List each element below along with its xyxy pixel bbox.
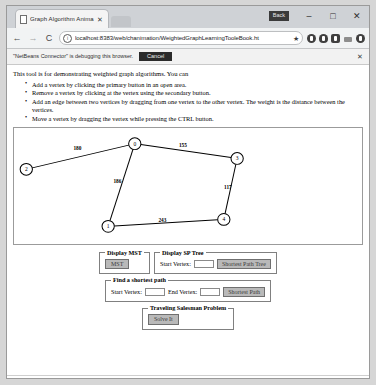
instruction-list: Add a vertex by clicking the primary but… [13, 81, 363, 123]
tab-strip: Graph Algorithm Anima ✕ Back – □ ✕ [7, 6, 369, 28]
close-icon[interactable]: ✕ [97, 16, 104, 23]
close-window-button[interactable]: ✕ [345, 6, 369, 26]
infobar-message: "NetBeans Connector" is debugging this b… [13, 54, 133, 60]
browser-tab[interactable]: Graph Algorithm Anima ✕ [15, 9, 109, 28]
find-shortest-path-legend: Find a shortest path [111, 277, 168, 283]
extension-icon-2[interactable] [331, 34, 340, 43]
tsp-legend: Traveling Salesman Problem [148, 305, 228, 311]
list-item: Add an edge between two vertices by drag… [32, 98, 363, 114]
vertex-label: 2 [25, 166, 28, 172]
tsp-panel: Traveling Salesman Problem Solve It [142, 305, 234, 330]
url-text: localhost:8383/web/chanimation/WeightedG… [75, 35, 290, 41]
shortest-path-tree-button[interactable]: Shortest Path Tree [217, 259, 271, 270]
graph-edge[interactable] [110, 149, 133, 220]
intro-text: This tool is for demonstrating weighted … [13, 70, 363, 78]
bookmark-star-icon[interactable]: ★ [293, 35, 299, 42]
edge-weight-label: 186 [113, 178, 121, 184]
minimize-button[interactable]: – [297, 6, 321, 26]
sp-tree-start-vertex-label: Start Vertex: [160, 261, 191, 267]
sp-tree-start-vertex-input[interactable] [194, 260, 214, 268]
edge-weight-label: 117 [224, 184, 232, 190]
debug-infobar: "NetBeans Connector" is debugging this b… [7, 49, 369, 65]
panel-row-middle: Find a shortest path Start Vertex: End V… [105, 277, 271, 302]
cancel-button[interactable]: Cancel [139, 52, 172, 62]
reload-icon[interactable]: C [43, 31, 55, 45]
vertex-label: 1 [107, 223, 110, 229]
window-controls: Back – □ ✕ [269, 6, 369, 26]
solve-it-button[interactable]: Solve It [148, 314, 179, 325]
vertex-label: 0 [133, 140, 136, 146]
shield-icon[interactable] [319, 34, 328, 43]
shortest-path-end-vertex-input[interactable] [200, 288, 220, 296]
find-shortest-path-panel: Find a shortest path Start Vertex: End V… [105, 277, 271, 302]
mst-button[interactable]: MST [105, 259, 129, 270]
list-item: Add a vertex by clicking the primary but… [32, 81, 363, 89]
shortest-path-button[interactable]: Shortest Path [223, 287, 265, 298]
edge-weight-label: 180 [73, 144, 81, 150]
display-sp-tree-legend: Display SP Tree [160, 250, 206, 256]
extension-icons [307, 34, 365, 43]
shortest-path-start-vertex-input[interactable] [145, 288, 165, 296]
shortest-path-end-vertex-label: End Vertex: [168, 289, 197, 295]
display-mst-panel: Display MST MST [99, 250, 150, 275]
edge-weight-label: 243 [158, 217, 166, 223]
extension-icon-1[interactable] [307, 34, 316, 43]
display-mst-legend: Display MST [105, 250, 144, 256]
desktop-background: Graph Algorithm Anima ✕ Back – □ ✕ ← → C… [0, 0, 376, 385]
panel-row-bottom: Traveling Salesman Problem Solve It [142, 305, 234, 330]
window-tooltip-badge: Back [269, 11, 289, 21]
browser-window: Graph Algorithm Anima ✕ Back – □ ✕ ← → C… [6, 5, 370, 379]
close-icon[interactable]: ✕ [357, 53, 363, 60]
page-viewport: This tool is for demonstrating weighted … [7, 65, 369, 378]
graph-canvas[interactable]: 180155186117243 01234 [13, 127, 363, 245]
edge-weight-label: 155 [179, 141, 187, 147]
list-item: Move a vertex by dragging the vertex whi… [32, 115, 363, 123]
lock-icon[interactable] [343, 34, 353, 43]
controls-area: Display MST MST Display SP Tree Start Ve… [13, 250, 363, 330]
display-sp-tree-panel: Display SP Tree Start Vertex: Shortest P… [154, 250, 277, 275]
graph-svg: 180155186117243 01234 [14, 128, 362, 244]
forward-arrow-icon[interactable]: → [27, 31, 39, 45]
tab-title: Graph Algorithm Anima [30, 16, 94, 22]
site-info-icon[interactable]: i [63, 34, 72, 43]
address-bar[interactable]: i localhost:8383/web/chanimation/Weighte… [59, 31, 303, 45]
list-item: Remove a vertex by clicking at the verte… [32, 89, 363, 97]
vertex-label: 4 [222, 216, 225, 222]
maximize-button[interactable]: □ [321, 6, 345, 26]
panel-row-top: Display MST MST Display SP Tree Start Ve… [99, 250, 277, 275]
browser-menu-icon[interactable] [356, 34, 365, 43]
new-tab-button[interactable] [111, 16, 131, 27]
navigation-bar: ← → C i localhost:8383/web/chanimation/W… [7, 28, 369, 49]
vertex-label: 3 [236, 155, 239, 161]
shortest-path-start-vertex-label: Start Vertex: [111, 289, 142, 295]
back-arrow-icon[interactable]: ← [11, 31, 23, 45]
page-bottom-divider [7, 375, 369, 376]
edge-layer [32, 144, 236, 225]
page-icon [20, 15, 27, 24]
